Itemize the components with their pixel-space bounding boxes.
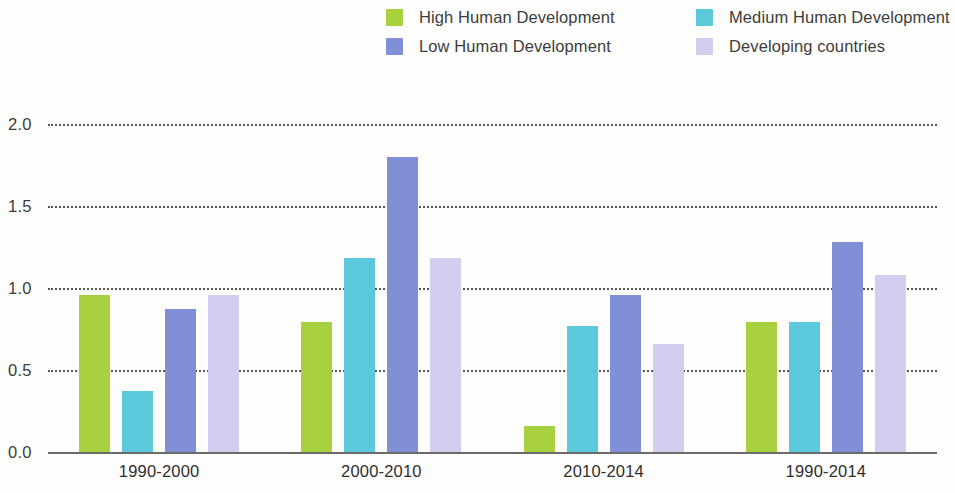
bar xyxy=(301,322,332,452)
bar xyxy=(832,242,863,452)
bar xyxy=(524,426,555,452)
x-axis-group-label: 2010-2014 xyxy=(493,462,715,481)
bar xyxy=(387,157,418,452)
bar xyxy=(122,391,153,452)
bar xyxy=(208,295,239,452)
bar xyxy=(79,295,110,452)
x-axis-group-label: 1990-2014 xyxy=(715,462,937,481)
bar xyxy=(875,275,906,452)
bar xyxy=(610,295,641,452)
bar xyxy=(567,326,598,452)
bar xyxy=(653,344,684,452)
bars-layer: 1990-20002000-20102010-20141990-2014 xyxy=(0,0,955,493)
bar xyxy=(789,322,820,452)
chart-figure: High Human DevelopmentMedium Human Devel… xyxy=(0,0,955,493)
bar xyxy=(165,309,196,452)
x-axis-group-label: 2000-2010 xyxy=(270,462,492,481)
bar xyxy=(430,258,461,452)
bar xyxy=(746,322,777,452)
x-axis-group-label: 1990-2000 xyxy=(48,462,270,481)
bar xyxy=(344,258,375,452)
